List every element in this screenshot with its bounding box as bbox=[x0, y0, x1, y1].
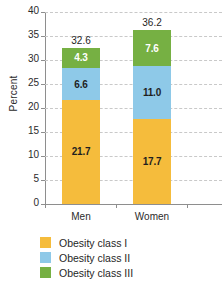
x-category-label-women: Women bbox=[117, 211, 187, 222]
bar-total-label-women: 36.2 bbox=[125, 17, 179, 28]
bar-segment-women-class2[interactable]: 11.0 bbox=[133, 66, 171, 119]
y-tick-mark-40 bbox=[41, 12, 45, 13]
legend-swatch-class1 bbox=[40, 237, 51, 248]
legend-swatch-class3 bbox=[40, 267, 51, 278]
legend-label-class3: Obesity class III bbox=[59, 267, 133, 279]
stacked-bar-chart: Percent 0510152025303540 32.6 4.3 6.6 21… bbox=[0, 0, 222, 287]
bar-segment-women-class1[interactable]: 17.7 bbox=[133, 119, 171, 204]
y-tick-label-30: 30 bbox=[15, 53, 39, 64]
y-tick-label-15: 15 bbox=[15, 125, 39, 136]
y-tick-mark-5 bbox=[41, 180, 45, 181]
y-axis-title: Percent bbox=[8, 59, 19, 129]
x-tick-mark-1 bbox=[116, 204, 117, 208]
legend-item-class1[interactable]: Obesity class I bbox=[40, 235, 133, 250]
y-tick-mark-10 bbox=[41, 156, 45, 157]
y-tick-mark-30 bbox=[41, 60, 45, 61]
x-axis-line bbox=[45, 204, 222, 205]
y-tick-mark-20 bbox=[41, 108, 45, 109]
y-tick-label-40: 40 bbox=[15, 5, 39, 16]
bar-segment-women-class3[interactable]: 7.6 bbox=[133, 30, 171, 66]
x-tick-mark-0 bbox=[45, 204, 46, 208]
y-tick-mark-25 bbox=[41, 84, 45, 85]
legend-item-class3[interactable]: Obesity class III bbox=[40, 265, 133, 280]
y-tick-label-35: 35 bbox=[15, 29, 39, 40]
y-tick-label-20: 20 bbox=[15, 101, 39, 112]
bar-total-label-men: 32.6 bbox=[54, 35, 108, 46]
bar-segment-men-class1[interactable]: 21.7 bbox=[62, 100, 100, 204]
y-tick-label-5: 5 bbox=[15, 173, 39, 184]
y-tick-label-25: 25 bbox=[15, 77, 39, 88]
bar-segment-men-class3[interactable]: 4.3 bbox=[62, 48, 100, 69]
bar-segment-men-class2[interactable]: 6.6 bbox=[62, 68, 100, 100]
y-tick-mark-35 bbox=[41, 36, 45, 37]
y-tick-mark-15 bbox=[41, 132, 45, 133]
gridline-40 bbox=[45, 12, 222, 13]
x-tick-mark-2 bbox=[187, 204, 188, 208]
legend-swatch-class2 bbox=[40, 252, 51, 263]
y-tick-label-10: 10 bbox=[15, 149, 39, 160]
plot-area: 0510152025303540 32.6 4.3 6.6 21.7 36.2 … bbox=[45, 12, 222, 205]
legend-label-class1: Obesity class I bbox=[59, 237, 127, 249]
x-category-label-men: Men bbox=[46, 211, 116, 222]
legend: Obesity class I Obesity class II Obesity… bbox=[40, 235, 133, 280]
legend-item-class2[interactable]: Obesity class II bbox=[40, 250, 133, 265]
y-tick-label-0: 0 bbox=[15, 197, 39, 208]
legend-label-class2: Obesity class II bbox=[59, 252, 130, 264]
